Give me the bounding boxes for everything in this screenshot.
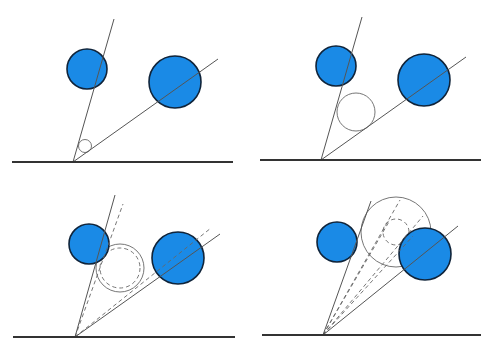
ray-1 <box>321 17 362 160</box>
panel-2 <box>260 17 481 160</box>
blue-circle-2 <box>398 54 450 106</box>
panel-1 <box>12 19 233 162</box>
blue-circle-1 <box>67 49 107 89</box>
dashed-ray <box>75 204 123 337</box>
blue-circle-2 <box>149 56 201 108</box>
ray-1 <box>323 201 371 335</box>
ray-1 <box>73 19 114 162</box>
panel-3 <box>13 195 235 337</box>
blue-circle-1 <box>316 46 356 86</box>
tangent-circle-construction-diagram <box>0 0 487 344</box>
panel-4 <box>262 197 481 335</box>
ray-1 <box>75 195 115 337</box>
blue-circle-1 <box>69 224 109 264</box>
